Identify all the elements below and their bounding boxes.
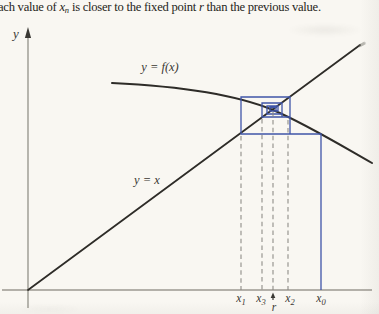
identity-line [28,45,360,290]
cobweb-spiral [241,97,321,290]
function-curve [112,83,372,163]
identity-line-label: y = x [134,173,160,188]
y-axis-label: y [13,26,19,42]
y-axis-arrowhead-icon [25,27,31,38]
tick-label-x3: x3 [256,292,265,307]
tick-label-r: r [272,301,276,313]
tick-label-x2: x2 [285,292,294,307]
tick-label-x0: x0 [316,292,325,307]
r-pointer-arrowhead-icon [271,293,276,299]
cobweb-diagram [0,0,379,314]
curve-label: y = f(x) [141,60,179,75]
textbook-figure-page: ach value of xn is closer to the fixed p… [0,0,379,314]
tick-label-x1: x1 [236,292,245,307]
